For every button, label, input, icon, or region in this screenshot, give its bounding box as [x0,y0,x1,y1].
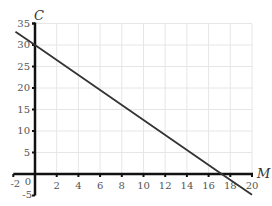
grid [35,24,252,175]
x-tick-label: 20 [246,180,259,191]
x-tick-label: 8 [119,180,125,191]
y-tick-label: 20 [17,82,30,93]
y-tick-label: 35 [17,18,30,29]
x-tick-label: 12 [159,180,172,191]
y-axis-title: C [34,8,44,23]
x-tick-label: 16 [202,180,215,191]
data-series [15,32,252,195]
line-chart: -22468101214161820-505101520253035 M C [0,0,272,206]
x-tick-label: 10 [137,180,150,191]
x-tick-label: 2 [54,180,60,191]
x-tick-label: 14 [181,180,194,191]
x-axis-title: M [256,166,271,181]
y-tick-label: 0 [25,176,31,187]
x-tick-label: 4 [75,180,81,191]
y-tick-label: 25 [17,61,30,72]
y-tick-label: 10 [17,125,30,136]
y-tick-label: 15 [17,104,30,115]
y-tick-label: 5 [24,147,30,158]
x-tick-label: 18 [224,180,237,191]
data-line [15,32,252,195]
y-tick-label: -5 [22,189,32,200]
x-tick-label: -2 [10,178,20,189]
x-tick-label: 6 [97,180,103,191]
